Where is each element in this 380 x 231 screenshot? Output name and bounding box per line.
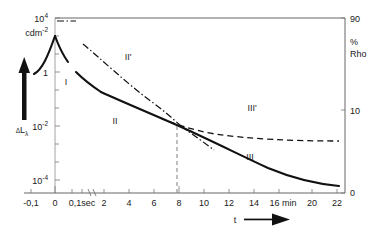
x-tick-01sec: 0,1sec (69, 198, 96, 208)
x-tick-6: 6 (151, 198, 156, 208)
y-right-tick-0: 0 (350, 188, 355, 198)
x-axis-title: t (234, 215, 237, 225)
y-tick-label-1: 1 (43, 68, 48, 78)
chart-root: 104 1 10-2 10-4 cdm-2 ΔLλ 90 10 0 % Rho (0, 0, 380, 231)
y-axis-left-labels: 104 1 10-2 10-4 (32, 12, 48, 186)
dash-dot-curve (57, 21, 181, 126)
y-right-tick-90: 90 (350, 14, 360, 24)
y-right-tick-10: 10 (350, 106, 360, 116)
x-tick-20: 20 (307, 198, 317, 208)
y-tick-label-10e4: 104 (34, 12, 48, 24)
x-axis-break-marks (88, 189, 96, 196)
x-axis-ticks (31, 186, 337, 193)
region-label-III-prime: III' (247, 103, 257, 113)
x-tick-22: 22 (332, 198, 342, 208)
solid-decay-curve (34, 36, 339, 186)
chart-svg: 104 1 10-2 10-4 cdm-2 ΔLλ 90 10 0 % Rho (0, 0, 380, 231)
dash-dot-curve-tail (181, 126, 214, 150)
y-axis-left-unit: cdm-2 (25, 26, 48, 38)
y-axis-left-title: ΔLλ (16, 125, 29, 137)
x-tick-4: 4 (126, 198, 131, 208)
y-right-unit-rho: Rho (350, 49, 367, 59)
y-axis-arrow-icon (19, 57, 31, 120)
y-tick-label-10e-4: 10-4 (32, 174, 48, 186)
x-tick-12: 12 (224, 198, 234, 208)
x-tick-2: 2 (101, 198, 106, 208)
y-axis-right-ticks (341, 18, 345, 193)
y-axis-right-labels: 90 10 0 % Rho (350, 14, 367, 198)
region-label-II: II (112, 116, 117, 126)
x-tick-neg01: -0,1 (23, 198, 39, 208)
x-tick-0: 0 (52, 198, 57, 208)
plot-frame (24, 18, 345, 193)
x-tick-8: 8 (176, 198, 181, 208)
x-axis-arrow-icon (244, 214, 290, 226)
x-tick-10: 10 (199, 198, 209, 208)
region-label-III: III (246, 152, 254, 162)
x-tick-16min: 16 min (269, 198, 296, 208)
y-right-unit-percent: % (350, 37, 358, 47)
x-tick-14: 14 (249, 198, 259, 208)
x-axis-labels: -0,1 0 0,1sec 2 4 6 8 10 12 14 16 min 20… (23, 198, 342, 208)
region-label-II-prime: II' (125, 52, 132, 62)
region-label-I: I (65, 77, 68, 87)
y-tick-label-10e-2: 10-2 (32, 120, 48, 132)
